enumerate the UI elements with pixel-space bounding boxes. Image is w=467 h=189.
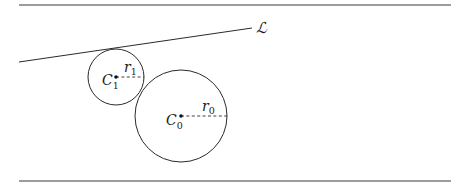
center-c1-dot [114,75,118,79]
radius-r0-label: r0 [202,98,215,116]
line-l-label: ℒ [256,19,268,37]
center-c1-label: C1 [102,72,119,91]
tangent-circles-diagram: ℒ C1 r1 C0 r0 [0,0,467,189]
center-c0-dot [179,114,183,118]
radius-r1-label: r1 [124,59,137,77]
